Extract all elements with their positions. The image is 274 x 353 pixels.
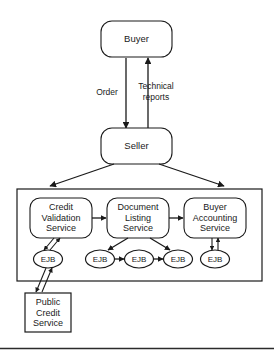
seller-to-container-left-arrow xyxy=(50,164,114,186)
buyer-accounting-service-line3: Service xyxy=(200,223,230,233)
document-listing-service-line3: Service xyxy=(123,223,153,233)
public-credit-service-line1: Public xyxy=(36,297,61,307)
document-listing-service-node[interactable]: Document Listing Service xyxy=(107,198,169,238)
public-credit-service-node[interactable]: Public Credit Service xyxy=(25,293,71,332)
buyer-accounting-service-line2: Accounting xyxy=(193,213,238,223)
ejb-to-public-credit-arrow xyxy=(36,268,46,292)
ejb-document-listing-1-label: EJB xyxy=(93,255,108,264)
architecture-diagram: Buyer Order Technical reports Seller Cre… xyxy=(0,0,274,353)
ejb-document-listing-2-label: EJB xyxy=(132,255,147,264)
credit-validation-service-node[interactable]: Credit Validation Service xyxy=(30,198,92,238)
seller-node[interactable]: Seller xyxy=(101,128,172,164)
public-credit-service-line3: Service xyxy=(33,318,63,328)
order-edge: Order xyxy=(96,58,126,128)
ejb-credit-validation-node[interactable]: EJB xyxy=(34,250,63,268)
credit-validation-service-line1: Credit xyxy=(49,202,74,212)
credit-validation-to-ejb-arrow xyxy=(44,238,54,250)
ejb-document-listing-1-node[interactable]: EJB xyxy=(86,250,115,268)
buyer-node[interactable]: Buyer xyxy=(101,21,172,57)
document-listing-service-line2: Listing xyxy=(125,213,151,223)
document-listing-to-ejb-left-arrow xyxy=(108,238,128,250)
technical-reports-label-line2: reports xyxy=(143,92,169,102)
document-listing-service-line1: Document xyxy=(117,202,159,212)
ejb-credit-validation-label: EJB xyxy=(41,255,56,264)
ejb-buyer-accounting-label: EJB xyxy=(208,255,223,264)
technical-reports-edge: Technical reports xyxy=(138,58,174,128)
credit-validation-service-line3: Service xyxy=(46,223,76,233)
buyer-accounting-service-line1: Buyer xyxy=(203,202,227,212)
seller-label: Seller xyxy=(124,140,148,151)
ejb-document-listing-2-node[interactable]: EJB xyxy=(125,250,154,268)
technical-reports-label-line1: Technical xyxy=(138,81,174,91)
document-listing-to-ejb-right-arrow xyxy=(150,238,170,250)
ejb-document-listing-3-label: EJB xyxy=(171,255,186,264)
public-credit-service-line2: Credit xyxy=(36,308,61,318)
public-credit-to-ejb-arrow xyxy=(42,268,52,292)
ejb-buyer-accounting-node[interactable]: EJB xyxy=(201,250,230,268)
seller-to-container-right-arrow xyxy=(159,164,224,186)
ejb-document-listing-3-node[interactable]: EJB xyxy=(164,250,193,268)
order-label: Order xyxy=(96,87,118,97)
buyer-accounting-service-node[interactable]: Buyer Accounting Service xyxy=(184,198,246,238)
buyer-label: Buyer xyxy=(124,33,149,44)
ejb-to-credit-validation-arrow xyxy=(50,238,60,250)
diagram-canvas: Buyer Order Technical reports Seller Cre… xyxy=(0,0,274,353)
credit-validation-service-line2: Validation xyxy=(42,213,81,223)
